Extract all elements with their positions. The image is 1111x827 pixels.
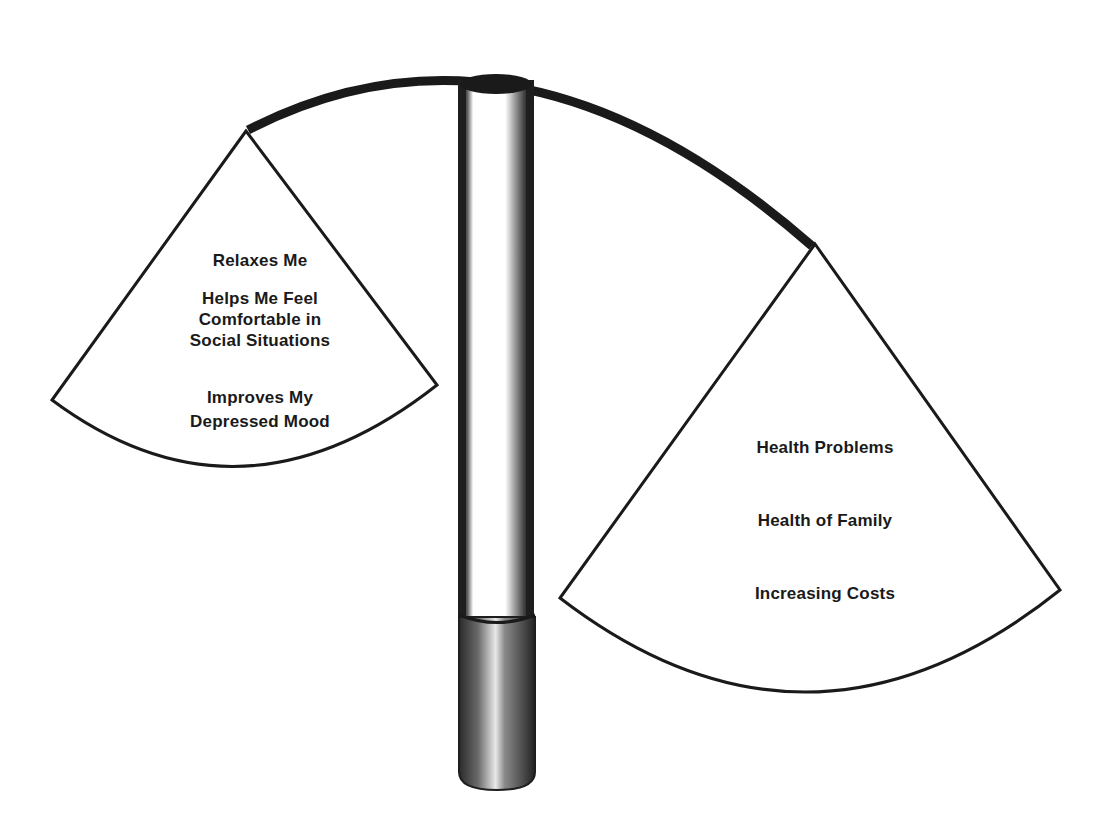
- right-pan-label-1: Health Problems: [715, 437, 935, 458]
- left-pan-label-6: Depressed Mood: [150, 411, 370, 432]
- cigarette-icon: [458, 74, 535, 790]
- right-pan-label-3: Increasing Costs: [715, 583, 935, 604]
- left-pan-label-4: Social Situations: [150, 330, 370, 351]
- left-pan-label-1: Relaxes Me: [160, 250, 360, 271]
- left-pan-label-2: Helps Me Feel: [150, 288, 370, 309]
- right-pan: [560, 244, 1060, 692]
- right-pan-label-2: Health of Family: [715, 510, 935, 531]
- left-pan-label-5: Improves My: [150, 387, 370, 408]
- left-pan-label-3: Comfortable in: [150, 309, 370, 330]
